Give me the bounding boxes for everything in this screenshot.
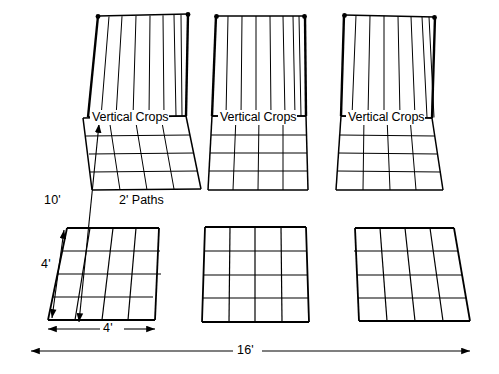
back-center-vertical-crops-label: Vertical Crops — [218, 110, 297, 125]
front-right-bed — [354, 228, 470, 321]
back-right-bed-grid — [336, 116, 443, 190]
bed-width-4ft-label: 4' — [103, 322, 113, 335]
back-left-bed — [83, 12, 201, 190]
back-right-bed — [336, 13, 443, 190]
back-left-bed-grid — [83, 116, 201, 190]
back-center-bed-grid — [208, 116, 308, 190]
back-center-trellis — [212, 14, 307, 116]
back-center-bed — [208, 14, 308, 190]
back-right-trellis — [341, 13, 437, 118]
paths-label: 2' Paths — [119, 194, 164, 207]
back-left-trellis — [88, 12, 190, 117]
front-left-bed — [48, 228, 161, 320]
front-center-bed — [202, 227, 309, 322]
depth-10ft-label: 10' — [44, 194, 61, 207]
back-left-vertical-crops-label: Vertical Crops — [90, 110, 169, 125]
garden-layout-drawing — [0, 0, 499, 374]
back-right-vertical-crops-label: Vertical Crops — [346, 110, 425, 125]
diagram-canvas: Vertical Crops Vertical Crops Vertical C… — [0, 0, 499, 374]
total-width-16ft-label: 16' — [237, 344, 254, 357]
bed-depth-4ft-label: 4' — [41, 258, 51, 271]
